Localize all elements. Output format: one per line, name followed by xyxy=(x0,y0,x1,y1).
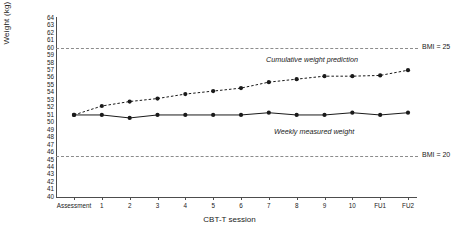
data-point-s1-2 xyxy=(128,116,132,120)
data-point-s0-2 xyxy=(128,99,132,103)
data-point-s1-10 xyxy=(350,111,354,115)
series-line-0 xyxy=(74,70,408,115)
data-point-s1-8 xyxy=(295,113,299,117)
weight-chart-figure: Weight (kg) 6463626160595857565554535251… xyxy=(0,0,459,239)
data-point-s0-4 xyxy=(183,92,187,96)
data-point-s0-12 xyxy=(406,68,410,72)
data-point-s1-1 xyxy=(100,113,104,117)
data-point-s1-3 xyxy=(155,113,159,117)
data-point-s1-7 xyxy=(267,111,271,115)
data-point-s1-11 xyxy=(378,113,382,117)
series-label-prediction: Cumulative weight prediction xyxy=(266,56,358,64)
data-point-s1-5 xyxy=(211,113,215,117)
data-point-s0-8 xyxy=(295,77,299,81)
data-point-s0-11 xyxy=(378,73,382,77)
data-point-s1-12 xyxy=(406,111,410,115)
data-point-s0-5 xyxy=(211,89,215,93)
data-point-s0-7 xyxy=(267,80,271,84)
data-point-s0-9 xyxy=(322,74,326,78)
data-point-s1-9 xyxy=(322,113,326,117)
data-point-s1-6 xyxy=(239,113,243,117)
data-point-s1-4 xyxy=(183,113,187,117)
data-point-s0-10 xyxy=(350,74,354,78)
series-plot xyxy=(0,0,459,239)
data-point-s0-3 xyxy=(155,96,159,100)
data-point-s0-6 xyxy=(239,86,243,90)
series-label-measured: Weekly measured weight xyxy=(274,128,354,136)
data-point-s1-0 xyxy=(72,113,76,117)
data-point-s0-1 xyxy=(100,104,104,108)
